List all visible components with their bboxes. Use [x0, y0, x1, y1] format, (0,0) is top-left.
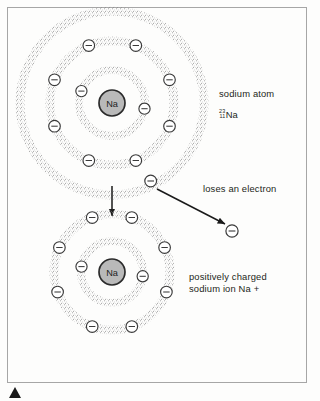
electron	[49, 74, 61, 86]
valence-electron	[145, 175, 157, 187]
free-electron	[226, 225, 238, 237]
electron	[161, 286, 173, 298]
ion-nucleus-label: Na	[106, 268, 119, 278]
electron	[139, 103, 150, 114]
sodium-atom-group: Na	[20, 11, 204, 195]
electron	[159, 242, 171, 254]
electron	[54, 242, 66, 254]
electron	[83, 40, 95, 52]
electron	[130, 155, 142, 167]
electron	[164, 120, 176, 132]
electron	[76, 261, 87, 272]
figure-page: Na	[0, 0, 320, 401]
atom-nucleus-label: Na	[106, 99, 119, 109]
electron	[86, 212, 98, 224]
electron	[83, 155, 95, 167]
electron	[130, 40, 142, 52]
sodium-atom-label: sodium atom	[219, 88, 274, 100]
sodium-ion-label: positively charged sodium ion Na +	[189, 271, 267, 296]
loses-electron-label: loses an electron	[203, 183, 276, 195]
electron	[126, 321, 138, 333]
page-marker-triangle	[9, 387, 21, 398]
electron	[52, 286, 64, 298]
electron	[126, 212, 138, 224]
electron	[49, 120, 61, 132]
sodium-ion-group: Na	[52, 212, 172, 333]
diagram-canvas: Na	[0, 0, 320, 401]
electron	[137, 271, 148, 282]
isotope-symbol: Na	[226, 109, 238, 120]
electron	[164, 74, 176, 86]
electron	[86, 321, 98, 333]
isotope-notation: 23 11 Na	[219, 104, 238, 120]
electron	[76, 86, 87, 97]
atom-shell-3-electrons	[145, 175, 157, 187]
isotope-atomic-number: 11	[219, 114, 225, 119]
